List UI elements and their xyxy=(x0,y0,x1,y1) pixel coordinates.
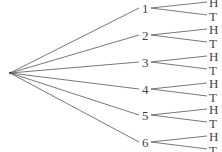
root-node xyxy=(9,72,11,74)
leaf-6-H: H xyxy=(209,130,218,143)
branch-root-to-5 xyxy=(10,73,139,115)
leaf-3-H: H xyxy=(209,50,218,63)
tree-branches xyxy=(0,0,222,152)
branch-1-H xyxy=(151,2,207,8)
branch-root-to-6 xyxy=(10,73,139,142)
branch-5-H xyxy=(151,109,207,115)
leaf-2-H: H xyxy=(209,23,218,36)
branch-root-to-4 xyxy=(10,73,139,89)
node-5: 5 xyxy=(142,109,149,122)
branch-4-T xyxy=(151,89,207,96)
leaf-6-T: T xyxy=(209,144,217,152)
branch-2-H xyxy=(151,29,207,35)
branch-6-T xyxy=(151,142,207,149)
node-4: 4 xyxy=(142,83,149,96)
leaf-5-H: H xyxy=(209,103,218,116)
branch-2-T xyxy=(151,35,207,42)
node-1: 1 xyxy=(142,2,149,15)
branch-3-T xyxy=(151,62,207,69)
node-3: 3 xyxy=(142,56,149,69)
branch-1-T xyxy=(151,8,207,15)
branch-5-T xyxy=(151,115,207,122)
branch-6-H xyxy=(151,136,207,142)
branch-3-H xyxy=(151,56,207,62)
leaf-4-H: H xyxy=(209,77,218,90)
branch-4-H xyxy=(151,83,207,89)
node-6: 6 xyxy=(142,136,149,149)
leaf-1-H: H xyxy=(209,0,218,9)
tree-diagram: 1HT2HT3HT4HT5HT6HT xyxy=(0,0,222,152)
node-2: 2 xyxy=(142,29,149,42)
